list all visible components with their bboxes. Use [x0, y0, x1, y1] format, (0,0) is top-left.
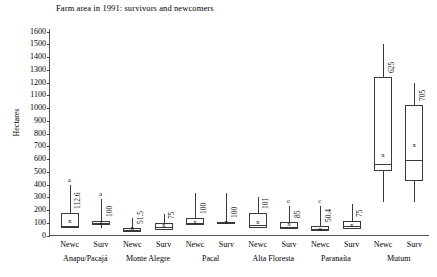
- y-tick-mark: [47, 32, 50, 33]
- x-axis-group-label: Mutum: [354, 254, 437, 263]
- y-tick-label: 0: [12, 231, 46, 240]
- y-tick-label: 900: [12, 116, 46, 125]
- y-axis-ticks: 0100200300400500600700800900100011001200…: [12, 0, 46, 277]
- y-tick-mark: [47, 44, 50, 45]
- significance-letter: c: [318, 197, 321, 205]
- box-value-label: 100: [199, 203, 208, 214]
- x-axis-line: [49, 235, 429, 236]
- y-axis-line: [49, 29, 50, 236]
- mean-marker: x: [379, 152, 387, 159]
- mean-marker: x: [254, 219, 262, 226]
- significance-letter: a: [99, 190, 102, 198]
- median-line: [374, 164, 392, 165]
- y-tick-mark: [47, 108, 50, 109]
- y-tick-label: 1100: [12, 90, 46, 99]
- mean-marker: x: [316, 226, 324, 233]
- y-tick-label: 400: [12, 180, 46, 189]
- box-value-label: 112.6: [73, 192, 82, 209]
- y-tick-label: 100: [12, 218, 46, 227]
- x-tick-subgroup-label: Surv: [394, 240, 434, 249]
- y-tick-label: 700: [12, 141, 46, 150]
- box-value-label: 100: [230, 207, 239, 218]
- y-tick-mark: [47, 70, 50, 71]
- mean-marker: x: [285, 221, 293, 228]
- significance-letter: a: [68, 176, 71, 184]
- mean-marker: x: [160, 222, 168, 229]
- y-tick-mark: [47, 210, 50, 211]
- significance-letter: c: [287, 197, 290, 205]
- y-tick-label: 1300: [12, 65, 46, 74]
- chart-title: Farm area in 1991: survivors and newcome…: [56, 3, 214, 13]
- y-tick-label: 500: [12, 167, 46, 176]
- y-tick-mark: [47, 121, 50, 122]
- y-tick-mark: [47, 159, 50, 160]
- y-tick-label: 300: [12, 192, 46, 201]
- mean-marker: x: [222, 219, 230, 226]
- boxplot-chart: Farm area in 1991: survivors and newcome…: [0, 0, 437, 277]
- y-tick-label: 1200: [12, 78, 46, 87]
- box-value-label: 100: [105, 206, 114, 217]
- y-tick-label: 1600: [12, 27, 46, 36]
- box-value-label: 85: [293, 210, 302, 218]
- y-tick-mark: [47, 95, 50, 96]
- box-value-label: 101: [261, 198, 270, 209]
- mean-marker: x: [66, 218, 74, 225]
- y-tick-mark: [47, 223, 50, 224]
- mean-marker: x: [410, 142, 418, 149]
- mean-marker: x: [128, 225, 136, 232]
- box-value-label: 625: [387, 62, 396, 73]
- box-value-label: 705: [418, 90, 427, 101]
- mean-marker: x: [348, 222, 356, 229]
- y-tick-mark: [47, 197, 50, 198]
- mean-marker: x: [191, 219, 199, 226]
- y-tick-label: 1000: [12, 103, 46, 112]
- y-tick-mark: [47, 146, 50, 147]
- y-tick-mark: [47, 172, 50, 173]
- y-tick-label: 600: [12, 154, 46, 163]
- y-tick-label: 1500: [12, 39, 46, 48]
- y-tick-label: 800: [12, 129, 46, 138]
- mean-marker: x: [97, 219, 105, 226]
- y-tick-mark: [47, 134, 50, 135]
- box-value-label: 75: [355, 209, 364, 217]
- median-line: [405, 160, 423, 161]
- box-value-label: 50.4: [324, 208, 333, 221]
- y-tick-label: 1400: [12, 52, 46, 61]
- y-tick-mark: [47, 185, 50, 186]
- y-tick-mark: [47, 57, 50, 58]
- box-value-label: 75: [167, 211, 176, 219]
- box-value-label: 51.5: [136, 210, 145, 223]
- y-tick-mark: [47, 83, 50, 84]
- y-tick-mark: [47, 236, 50, 237]
- median-line: [61, 226, 79, 227]
- y-tick-label: 200: [12, 205, 46, 214]
